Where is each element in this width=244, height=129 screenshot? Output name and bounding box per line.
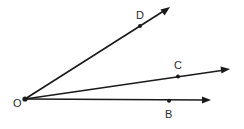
vertex-o-dot: [22, 96, 27, 101]
arrowhead-icon: [221, 67, 231, 74]
ray-od: D: [25, 7, 170, 99]
point-b-label: B: [165, 108, 172, 120]
vertex-o: O: [13, 96, 28, 109]
diagram-svg: D C B O: [0, 0, 244, 129]
point-c-dot: [176, 75, 180, 79]
point-d-label: D: [136, 9, 144, 21]
point-d-dot: [138, 24, 142, 28]
point-b-dot: [167, 99, 171, 103]
ray-ob: B: [25, 97, 211, 121]
arrowhead-icon: [202, 97, 211, 104]
arrowhead-icon: [161, 7, 171, 16]
vertex-o-label: O: [13, 97, 22, 109]
angle-diagram: D C B O: [0, 0, 244, 129]
point-c-label: C: [174, 59, 182, 71]
